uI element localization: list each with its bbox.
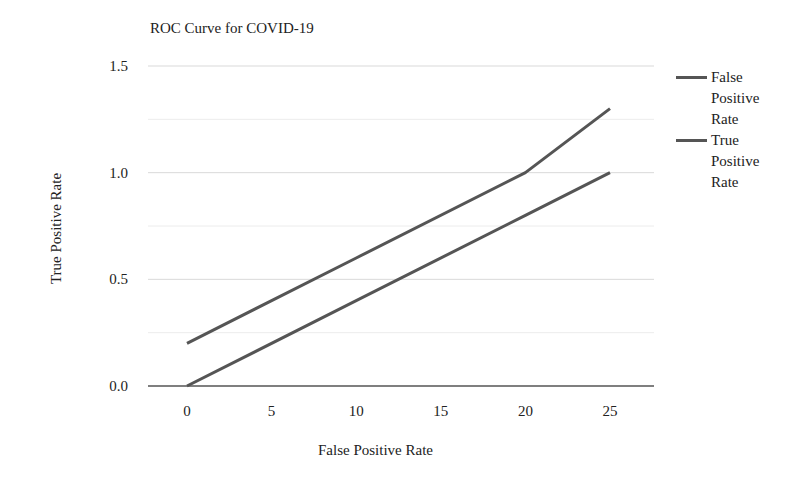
x-axis-ticks: 0510152025 (183, 403, 617, 419)
y-axis-ticks: 0.00.51.01.5 (109, 58, 128, 394)
legend-item-false-positive-rate: False Positive Rate (676, 67, 771, 130)
legend-item-true-positive-rate: True Positive Rate (676, 130, 771, 193)
legend-label: True Positive Rate (711, 130, 771, 193)
legend-line-swatch (676, 139, 707, 142)
x-axis-label: False Positive Rate (318, 442, 433, 459)
x-tick-label: 20 (518, 403, 533, 419)
y-tick-label: 1.0 (109, 165, 128, 181)
y-axis-label: True Positive Rate (48, 149, 65, 309)
x-tick-label: 10 (349, 403, 364, 419)
legend: False Positive Rate True Positive Rate (676, 67, 771, 193)
x-tick-label: 0 (183, 403, 191, 419)
y-tick-label: 0.0 (109, 378, 128, 394)
legend-line-swatch (676, 76, 707, 79)
y-tick-label: 1.5 (109, 58, 128, 74)
y-tick-label: 0.5 (109, 271, 128, 287)
data-series (187, 109, 610, 386)
x-tick-label: 15 (433, 403, 448, 419)
x-tick-label: 25 (603, 403, 618, 419)
x-tick-label: 5 (268, 403, 276, 419)
legend-label: False Positive Rate (711, 67, 771, 130)
gridlines (148, 66, 654, 386)
